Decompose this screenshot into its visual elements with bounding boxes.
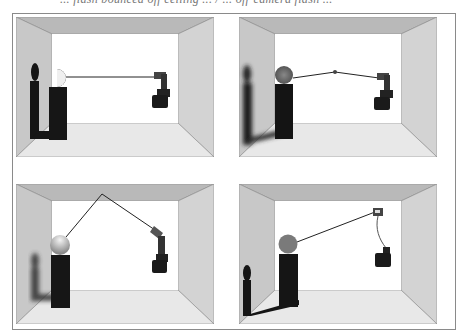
panel-direct-flash (16, 17, 214, 155)
room-diagram-4 (239, 184, 437, 324)
room-diagram-2 (239, 17, 437, 157)
cropped-caption-text: ... flash bounced off ceiling ... / ... … (60, 0, 460, 7)
panel-off-camera-flash (239, 184, 437, 322)
panel-diffused-flash (239, 17, 437, 155)
panel-bounce-flash (16, 184, 214, 322)
room-diagram-1 (16, 17, 214, 157)
room-diagram-3 (16, 184, 214, 324)
figure-frame (12, 13, 456, 330)
